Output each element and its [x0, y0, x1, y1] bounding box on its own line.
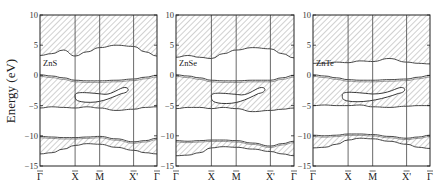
- material-label: ZnS: [43, 58, 57, 68]
- y-tick-label: −10: [25, 131, 38, 141]
- y-tick-label: 5: [34, 40, 38, 50]
- kpoint-label: M: [368, 171, 377, 182]
- kpoint-label: Γ: [154, 171, 160, 182]
- y-tick-label: 5: [307, 40, 311, 50]
- kpoint-label: M: [232, 171, 241, 182]
- panel-zns: 1050−5−10−15ΓXMX'ΓZnS: [25, 10, 160, 182]
- y-tick-label: −5: [302, 101, 311, 111]
- kpoint-label: X: [71, 171, 79, 182]
- conduction-band-region: [40, 15, 157, 56]
- kpoint-label: X: [208, 171, 216, 182]
- kpoint-label: Γ: [310, 171, 316, 182]
- conduction-band-region: [313, 15, 430, 64]
- kpoint-label: Γ: [427, 171, 433, 182]
- kpoint-label: X': [402, 171, 411, 182]
- material-label: ZnTe: [316, 58, 334, 68]
- y-axis-label: Energy (eV): [3, 59, 18, 123]
- y-tick-label: −15: [25, 161, 38, 171]
- kpoint-label: Γ: [291, 171, 297, 182]
- kpoint-label: X': [129, 171, 138, 182]
- kpoint-label: M: [95, 171, 104, 182]
- y-tick-label: 0: [34, 70, 38, 80]
- y-tick-label: −10: [298, 131, 311, 141]
- y-tick-label: −15: [161, 161, 174, 171]
- panel-znte: 1050−5−10−15ΓXMX'ΓZnTe: [298, 10, 433, 182]
- y-tick-label: 5: [170, 40, 174, 50]
- band-structure-figure: Energy (eV) 1050−5−10−15ΓXMX'ΓZnS1050−5−…: [0, 0, 445, 188]
- kpoint-label: X: [344, 171, 352, 182]
- conduction-band-region: [176, 15, 294, 58]
- kpoint-label: X': [266, 171, 275, 182]
- y-tick-label: −5: [29, 101, 38, 111]
- panel-znse: 1050−5−10−15ΓXMX'ΓZnSe: [161, 10, 297, 182]
- valence-band-region: [40, 75, 157, 111]
- y-tick-label: −15: [298, 161, 311, 171]
- y-tick-label: −5: [165, 101, 174, 111]
- kpoint-label: Γ: [173, 171, 179, 182]
- material-label: ZnSe: [179, 58, 197, 68]
- y-tick-label: 10: [166, 10, 175, 20]
- y-tick-label: 0: [170, 70, 174, 80]
- y-tick-label: −10: [161, 131, 174, 141]
- y-tick-label: 10: [303, 10, 312, 20]
- kpoint-label: Γ: [37, 171, 43, 182]
- y-tick-label: 10: [30, 10, 39, 20]
- y-tick-label: 0: [307, 70, 311, 80]
